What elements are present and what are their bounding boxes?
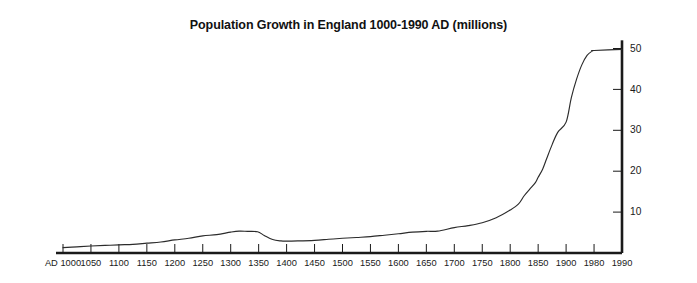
x-tick-label-1990: 1990 (612, 258, 633, 268)
y-tick-label-10: 10 (630, 206, 642, 217)
x-tick-label-1150: 1150 (137, 258, 157, 268)
x-tick-label-1200: 1200 (164, 258, 185, 268)
x-tick-label-AD-1000: AD 1000 (45, 258, 81, 268)
x-tick-label-1800: 1800 (500, 258, 521, 268)
x-tick-label-1300: 1300 (220, 258, 241, 268)
x-axis-tick-labels: AD 1000105011001150120012501300135014001… (45, 258, 632, 268)
x-tick-label-1400: 1400 (276, 258, 297, 268)
x-tick-label-1550: 1550 (360, 258, 381, 268)
x-tick-label-1350: 1350 (248, 258, 269, 268)
x-tick-label-1600: 1600 (388, 258, 409, 268)
x-tick-label-1650: 1650 (416, 258, 437, 268)
x-tick-label-1100: 1100 (109, 258, 129, 268)
y-tick-label-50: 50 (630, 43, 642, 54)
x-tick-label-1500: 1500 (332, 258, 353, 268)
y-axis-ticks (613, 49, 621, 213)
chart-container: Population Growth in England 1000-1990 A… (0, 0, 697, 283)
x-tick-label-1050: 1050 (81, 258, 102, 268)
population-data-line (63, 49, 622, 247)
x-tick-label-1980: 1980 (584, 258, 605, 268)
x-tick-label-1850: 1850 (528, 258, 549, 268)
x-axis-ticks (63, 244, 622, 252)
x-tick-label-1900: 1900 (556, 258, 577, 268)
population-line-chart: AD 1000105011001150120012501300135014001… (0, 0, 697, 283)
x-tick-label-1750: 1750 (472, 258, 493, 268)
x-tick-label-1250: 1250 (192, 258, 213, 268)
y-axis-tick-labels: 1020304050 (630, 43, 642, 218)
y-tick-label-40: 40 (630, 84, 642, 95)
y-tick-label-20: 20 (630, 165, 642, 176)
x-tick-label-1450: 1450 (304, 258, 325, 268)
y-tick-label-30: 30 (630, 124, 642, 135)
x-tick-label-1700: 1700 (444, 258, 465, 268)
